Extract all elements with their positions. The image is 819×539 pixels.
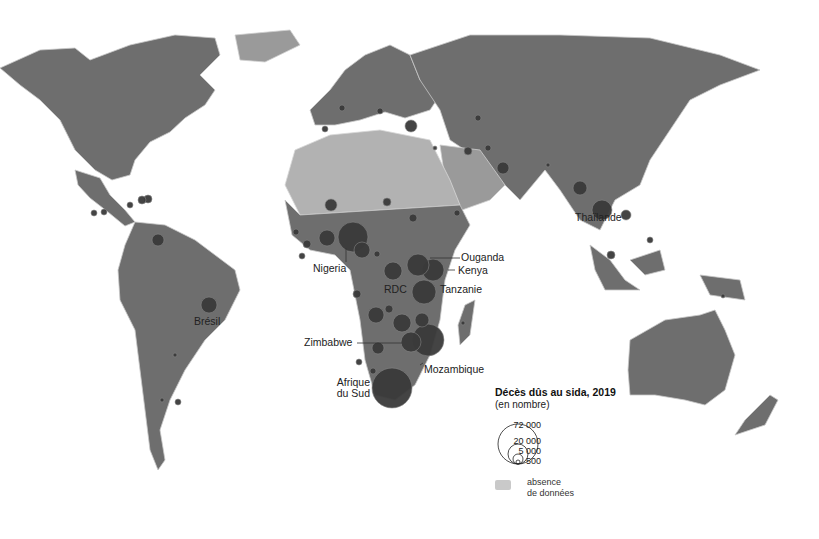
label-rdc: RDC: [384, 284, 407, 295]
legend-size-20000: 20 000: [501, 436, 541, 446]
label-mozambique: Mozambique: [424, 364, 484, 375]
label-zimbabwe: Zimbabwe: [304, 337, 352, 348]
legend-nodata-swatch: [495, 480, 511, 490]
legend-size-5000: 5 000: [501, 446, 541, 456]
legend-size-72000: 72 000: [501, 420, 541, 430]
label-bresil: Brésil: [194, 316, 220, 327]
legend-nodata-line2: de données: [527, 488, 587, 499]
greenland: [235, 30, 300, 62]
label-nigeria: Nigeria: [313, 263, 346, 274]
madagascar: [458, 300, 475, 345]
legend-subtitle: (en nombre): [495, 399, 655, 410]
label-tanzanie: Tanzanie: [440, 284, 482, 295]
new-zealand: [735, 395, 778, 435]
north-america: [0, 35, 220, 180]
label-ouganda: Ouganda: [461, 252, 504, 263]
central-america: [75, 170, 135, 226]
label-afrique-du-sud-line2: du Sud: [336, 388, 370, 399]
label-afrique-du-sud: Afrique du Sud: [336, 377, 370, 399]
legend: Décès dûs au sida, 2019 (en nombre) 72 0…: [495, 386, 655, 410]
north-africa: [285, 130, 460, 215]
legend-nodata-line1: absence: [527, 477, 587, 488]
legend-title: Décès dûs au sida, 2019: [495, 386, 655, 398]
world-map: [0, 0, 819, 539]
legend-size-500: 500: [501, 456, 541, 466]
label-thailande: Thaïlande: [575, 212, 622, 223]
legend-nodata-label: absence de données: [527, 477, 587, 499]
south-america: [118, 222, 240, 470]
label-kenya: Kenya: [458, 265, 488, 276]
